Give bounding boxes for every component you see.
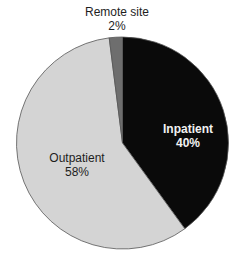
- inpatient-percent: 40%: [163, 136, 213, 150]
- inpatient-name: Inpatient: [163, 122, 213, 136]
- outpatient-name: Outpatient: [49, 151, 104, 165]
- remote-site-percent: 2%: [85, 19, 149, 33]
- outpatient-label: Outpatient 58%: [49, 151, 104, 179]
- remote-site-name: Remote site: [85, 5, 149, 19]
- remote-site-label: Remote site 2%: [85, 5, 149, 33]
- inpatient-label: Inpatient 40%: [163, 122, 213, 150]
- outpatient-percent: 58%: [49, 165, 104, 179]
